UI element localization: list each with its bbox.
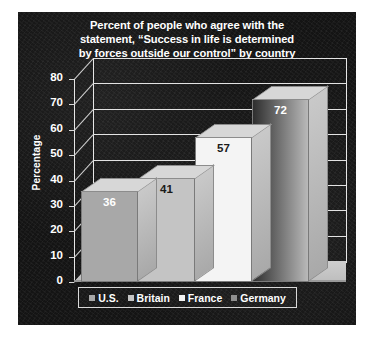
y-tick-mark [69,257,74,258]
y-tick-mark [69,231,74,232]
depth-connector [74,83,94,105]
y-tick-label: 0 [33,274,63,286]
y-tick-label: 80 [33,71,63,83]
y-tick-mark [69,206,74,207]
legend-label: Britain [137,292,170,304]
y-tick-label: 20 [33,223,63,235]
y-tick-mark [69,130,74,131]
bar-side-face [308,85,328,282]
bar-us: 36 [81,191,138,282]
legend-label: France [188,292,222,304]
bar-value-label: 72 [252,104,309,116]
y-tick-label: 50 [33,147,63,159]
depth-connector [74,160,94,182]
y-tick-label: 70 [33,96,63,108]
depth-connector [74,134,94,156]
depth-connector [74,58,94,80]
legend-swatch [89,295,95,301]
legend-item-us[interactable]: U.S. [89,292,118,304]
chart-panel: Percent of people who agree with the sta… [18,12,356,325]
legend-swatch [179,295,185,301]
y-tick-mark [69,79,74,80]
bar-side-face [194,164,214,282]
bar-value-label: 57 [195,142,252,154]
bar-value-label: 36 [81,196,138,208]
bar-side-face [137,177,157,282]
legend-label: Germany [240,292,286,304]
bar-side-face [251,123,271,282]
y-tick-mark [69,104,74,105]
plot-area: Percentage 80706050403020100 36415772 U.… [18,12,356,325]
y-tick-label: 10 [33,249,63,261]
y-tick-mark [69,282,74,283]
y-tick-label: 40 [33,173,63,185]
y-tick-label: 30 [33,198,63,210]
legend-item-france[interactable]: France [179,292,222,304]
gridline [93,58,346,59]
legend-item-britain[interactable]: Britain [128,292,170,304]
chart-screenshot: Percent of people who agree with the sta… [0,0,372,343]
legend-swatch [231,295,237,301]
y-tick-mark [69,181,74,182]
legend-label: U.S. [98,292,118,304]
legend-swatch [128,295,134,301]
y-tick-mark [69,155,74,156]
chart-legend: U.S.BritainFranceGermany [78,287,297,308]
y-tick-label: 60 [33,122,63,134]
legend-item-germany[interactable]: Germany [231,292,286,304]
depth-connector [74,109,94,131]
gridline [93,83,346,84]
